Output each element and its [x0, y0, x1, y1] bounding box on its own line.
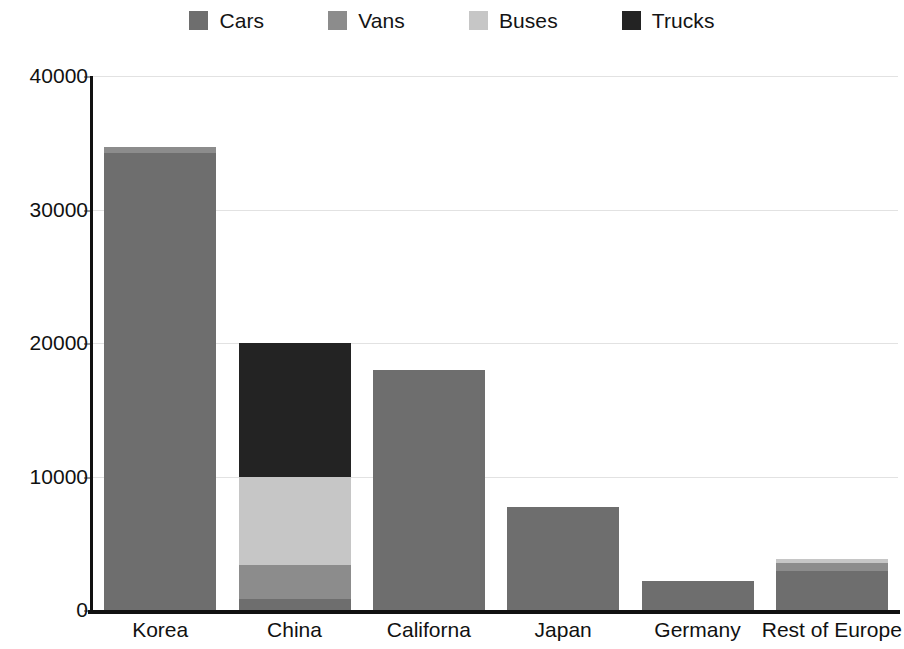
bar-segment-japan-cars[interactable] [507, 507, 619, 610]
legend-swatch-vans-icon [328, 11, 347, 30]
x-label-china: China [217, 618, 371, 642]
x-label-japan: Japan [486, 618, 640, 642]
x-axis-line [88, 610, 900, 614]
bar-group-californa[interactable] [373, 370, 485, 610]
y-tick-label-0: 0 [4, 599, 88, 620]
bar-segment-china-cars[interactable] [239, 599, 351, 610]
legend-label-vans: Vans [358, 10, 405, 31]
bar-segment-rest-of-europe-vans[interactable] [776, 563, 888, 571]
y-tick-label-30000: 30000 [4, 199, 88, 220]
bar-segment-china-buses[interactable] [239, 477, 351, 565]
bar-segment-rest-of-europe-cars[interactable] [776, 571, 888, 610]
legend-item-cars[interactable]: Cars [189, 10, 264, 31]
bar-group-china[interactable] [239, 343, 351, 610]
bar-series-container [93, 40, 899, 610]
chart-legend: Cars Vans Buses Trucks [0, 0, 904, 40]
bar-segment-china-vans[interactable] [239, 565, 351, 600]
x-label-korea: Korea [83, 618, 237, 642]
legend-label-trucks: Trucks [652, 10, 715, 31]
y-axis-tick-labels: 010000200003000040000 [0, 40, 88, 649]
x-label-germany: Germany [620, 618, 774, 642]
bar-segment-californa-cars[interactable] [373, 370, 485, 610]
bar-group-japan[interactable] [507, 507, 619, 610]
legend-swatch-trucks-icon [622, 11, 641, 30]
bar-segment-korea-cars[interactable] [104, 153, 216, 610]
y-tick-label-10000: 10000 [4, 466, 88, 487]
y-tick-label-20000: 20000 [4, 332, 88, 353]
x-label-rest-of-europe: Rest of Europe [755, 618, 904, 642]
bar-segment-germany-cars[interactable] [642, 581, 754, 610]
bar-segment-korea-vans[interactable] [104, 147, 216, 154]
bar-group-germany[interactable] [642, 581, 754, 610]
bar-group-rest-of-europe[interactable] [776, 559, 888, 610]
legend-item-trucks[interactable]: Trucks [622, 10, 715, 31]
y-tick-label-40000: 40000 [4, 65, 88, 86]
bar-segment-china-trucks[interactable] [239, 343, 351, 477]
bar-group-korea[interactable] [104, 147, 216, 610]
legend-item-buses[interactable]: Buses [469, 10, 558, 31]
legend-label-buses: Buses [499, 10, 558, 31]
legend-swatch-buses-icon [469, 11, 488, 30]
bar-segment-rest-of-europe-buses[interactable] [776, 559, 888, 563]
x-axis-category-labels: KoreaChinaCalifornaJapanGermanyRest of E… [93, 618, 899, 648]
legend-label-cars: Cars [219, 10, 264, 31]
plot-area: 010000200003000040000 KoreaChinaCaliforn… [0, 40, 904, 649]
x-label-californa: Californa [352, 618, 506, 642]
stacked-bar-chart: Cars Vans Buses Trucks 01000020000300004… [0, 0, 904, 649]
legend-swatch-cars-icon [189, 11, 208, 30]
legend-item-vans[interactable]: Vans [328, 10, 405, 31]
